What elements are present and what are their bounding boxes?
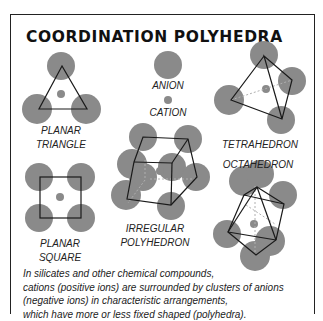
planar-triangle-label: PLANAR TRIANGLE [36, 124, 86, 152]
planar-square-figure [25, 163, 95, 232]
cation-label: CATION [149, 106, 186, 120]
octahedron-figure [213, 160, 297, 271]
anion-icon [269, 181, 297, 209]
irregular-polyhedron-figure [111, 123, 210, 220]
tetrahedron-label: TETRAHEDRON [222, 138, 298, 152]
cation-legend-icon [164, 96, 172, 104]
anion-legend-icon [154, 51, 182, 79]
cation-icon [156, 167, 164, 175]
legend-figure [154, 51, 182, 104]
figure-caption: In silicates and other chemical compound… [23, 267, 284, 321]
anion-icon [182, 163, 210, 191]
hidden-edge [246, 205, 275, 224]
tetrahedron-figure [214, 41, 306, 134]
cation-icon [56, 193, 64, 201]
anion-icon [267, 106, 295, 134]
planar-triangle-figure [22, 52, 101, 124]
planar-square-label: PLANAR SQUARE [39, 237, 81, 265]
cation-icon [250, 220, 258, 228]
octahedron-label: OCTAHEDRON [223, 158, 293, 172]
irregular-polyhedron-label: IRREGULAR POLYHEDRON [120, 222, 189, 250]
anion-label: ANION [152, 79, 184, 93]
cation-icon [57, 90, 65, 98]
anion-icon [47, 52, 75, 80]
anion-icon [111, 180, 141, 210]
